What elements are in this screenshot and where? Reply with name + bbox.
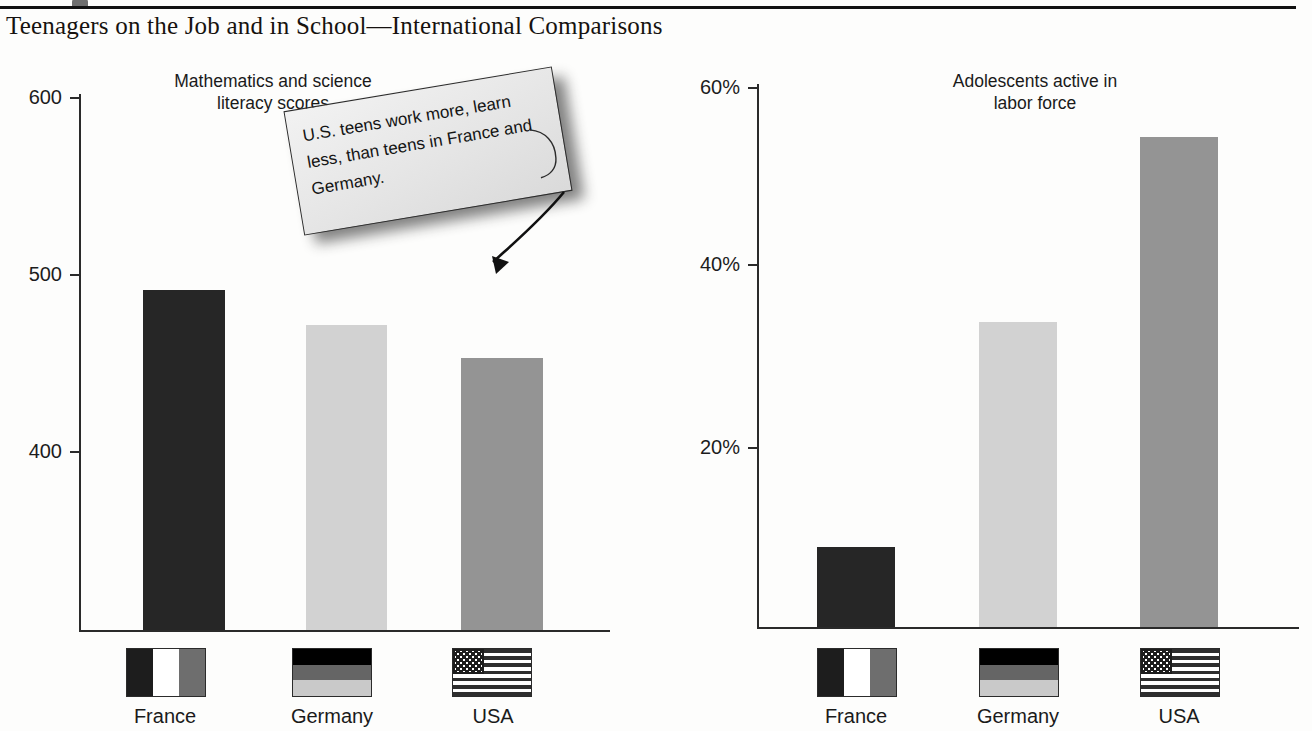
- y-tick-600: [70, 97, 81, 99]
- x-axis-literacy: [79, 630, 610, 632]
- y-tick-label-40pct: 40%: [650, 253, 740, 276]
- y-axis-labor: [757, 84, 759, 629]
- france-flag-icon: [126, 648, 206, 697]
- y-tick-500: [70, 274, 81, 276]
- callout-arrow-icon: [288, 84, 588, 344]
- bar-labor-germany[interactable]: [979, 322, 1057, 627]
- germany-flag-icon: [979, 648, 1059, 697]
- page-title: Teenagers on the Job and in School—Inter…: [6, 12, 663, 40]
- bar-labor-france[interactable]: [817, 547, 895, 627]
- category-label-usa: USA: [433, 705, 553, 728]
- y-tick-label-600: 600: [0, 86, 62, 109]
- y-tick-40pct: [748, 264, 759, 266]
- france-flag-icon: [817, 648, 897, 697]
- bar-literacy-germany[interactable]: [306, 325, 387, 630]
- usa-flag-canton: [453, 649, 484, 674]
- bar-literacy-usa[interactable]: [461, 358, 543, 630]
- chart-title-line-1: Adolescents active in: [704, 70, 1312, 92]
- usa-flag-icon: [452, 648, 532, 697]
- bar-literacy-france[interactable]: [143, 290, 225, 630]
- category-label-france: France: [796, 705, 916, 728]
- y-tick-20pct: [748, 447, 759, 449]
- usa-flag-canton: [1141, 649, 1172, 674]
- x-axis-labor: [757, 627, 1299, 629]
- category-label-germany: Germany: [958, 705, 1078, 728]
- y-tick-400: [70, 451, 81, 453]
- category-label-usa: USA: [1119, 705, 1239, 728]
- y-tick-label-500: 500: [0, 263, 62, 286]
- category-label-france: France: [105, 705, 225, 728]
- y-tick-label-60pct: 60%: [650, 76, 740, 99]
- y-axis-literacy: [79, 94, 81, 632]
- chart-title-labor: Adolescents active in labor force: [704, 70, 1312, 114]
- header-rule: [0, 6, 1296, 9]
- usa-flag-icon: [1140, 648, 1220, 697]
- chart-title-line-2: labor force: [704, 92, 1312, 114]
- callout-note: U.S. teens work more, learn less, than t…: [288, 84, 588, 244]
- chart-labor-force: Adolescents active in labor force 60% 40…: [650, 60, 1312, 660]
- y-tick-label-400: 400: [0, 440, 62, 463]
- y-tick-label-20pct: 20%: [650, 436, 740, 459]
- bar-labor-usa[interactable]: [1140, 137, 1218, 627]
- figure-page: Teenagers on the Job and in School—Inter…: [0, 0, 1312, 731]
- y-tick-60pct: [748, 87, 759, 89]
- germany-flag-icon: [292, 648, 372, 697]
- category-label-germany: Germany: [272, 705, 392, 728]
